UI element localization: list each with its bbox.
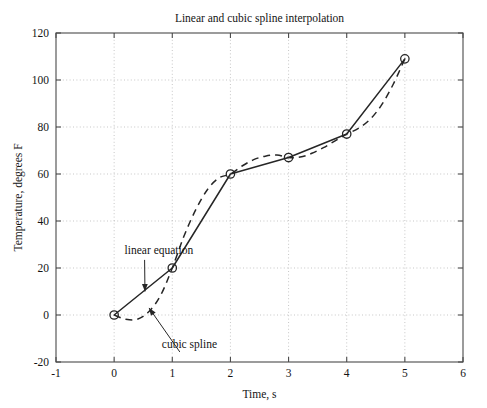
chart-background <box>0 0 487 408</box>
chart-canvas: -10123456 -20020406080100120 linear equa… <box>0 0 487 408</box>
annotation-label-linear-equation: linear equation <box>125 244 194 257</box>
x-tick-label: 0 <box>111 367 117 379</box>
y-axis-title: Temperature, degrees F <box>12 143 25 251</box>
chart-title: Linear and cubic spline interpolation <box>175 12 344 25</box>
x-tick-label: 2 <box>228 367 234 379</box>
x-tick-label: -1 <box>51 367 61 379</box>
x-axis-title: Time, s <box>242 388 277 401</box>
x-tick-label: 5 <box>402 367 408 379</box>
x-tick-label: 4 <box>344 367 350 379</box>
x-tick-label: 6 <box>460 367 466 379</box>
x-tick-label: 3 <box>286 367 292 379</box>
x-tick-label: 1 <box>169 367 175 379</box>
y-tick-label: 120 <box>32 27 50 39</box>
y-tick-label: -20 <box>34 356 50 368</box>
y-tick-label: 100 <box>32 74 50 86</box>
chart-page: -10123456 -20020406080100120 linear equa… <box>0 0 487 408</box>
y-tick-label: 20 <box>38 262 50 274</box>
y-tick-label: 40 <box>38 215 50 227</box>
y-tick-label: 0 <box>43 309 49 321</box>
annotation-label-cubic-spline: cubic spline <box>162 338 217 351</box>
y-tick-label: 60 <box>38 168 50 180</box>
y-tick-label: 80 <box>38 121 50 133</box>
